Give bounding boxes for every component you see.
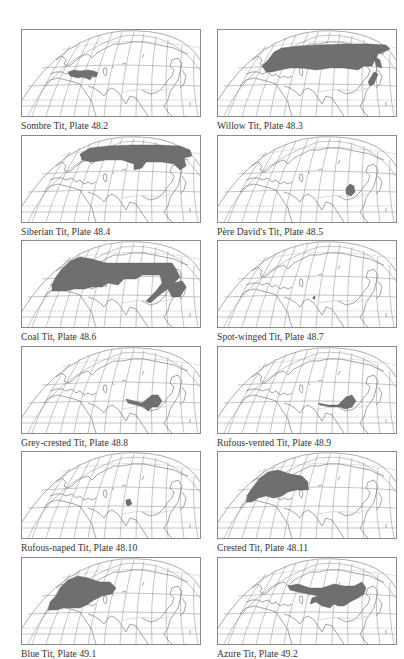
range-polygon [126,499,132,506]
range-polygon [288,582,366,608]
range-polygon [262,44,390,72]
range-polygon [246,470,308,502]
range-map-svg [218,452,396,538]
range-polygon [126,395,162,411]
range-map [217,557,397,645]
range-map-svg [22,30,200,116]
range-map [21,557,201,645]
range-map [217,346,397,434]
range-map [21,451,201,539]
range-area [80,145,192,170]
range-map-svg [22,558,200,644]
map-caption: Père David's Tit, Plate 48.5 [217,226,323,237]
range-area [48,576,116,610]
range-map [21,240,201,328]
map-caption: Coal Tit, Plate 48.6 [21,331,96,342]
range-map-svg [22,136,200,222]
range-map-svg [22,452,200,538]
map-caption: Azure Tit, Plate 49.2 [217,648,298,659]
range-map-svg [218,136,396,222]
range-area [313,296,315,299]
range-area [68,70,98,80]
range-map [217,451,397,539]
range-polygon [68,70,98,80]
range-polygon [374,56,382,68]
range-map [217,135,397,223]
range-polygon [346,184,355,196]
range-map [217,29,397,117]
range-area [318,395,356,409]
map-caption: Rufous-naped Tit, Plate 48.10 [21,542,137,553]
range-map-svg [22,241,200,327]
map-caption: Siberian Tit, Plate 48.4 [21,226,110,237]
map-caption: Sombre Tit, Plate 48.2 [21,120,108,131]
map-caption: Spot-winged Tit, Plate 48.7 [217,331,324,342]
map-caption: Blue Tit, Plate 49.1 [21,648,96,659]
range-polygon [318,395,356,409]
range-map [217,240,397,328]
range-map [21,135,201,223]
range-map-svg [22,347,200,433]
range-map-svg [218,558,396,644]
range-map [21,346,201,434]
map-caption: Willow Tit, Plate 48.3 [217,120,303,131]
range-map-svg [218,347,396,433]
range-area [346,184,355,196]
range-area [126,499,132,506]
range-polygon [80,145,192,170]
map-caption: Rufous-vented Tit, Plate 48.9 [217,437,331,448]
range-area [288,582,366,608]
map-caption: Crested Tit, Plate 48.11 [217,542,308,553]
range-map [21,29,201,117]
range-map-svg [218,241,396,327]
range-polygon [313,296,315,299]
range-area [262,44,390,86]
range-area [246,470,308,502]
range-polygon [48,576,116,610]
range-map-svg [218,30,396,116]
range-area [126,395,162,411]
map-caption: Grey-crested Tit, Plate 48.8 [21,437,128,448]
